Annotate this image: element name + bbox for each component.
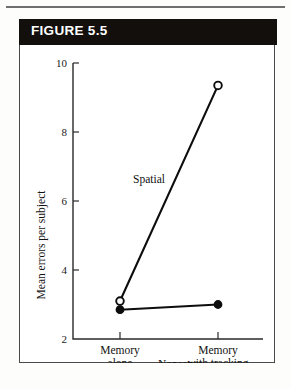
y-axis-title: Mean errors per subject [35, 190, 48, 300]
x-category-label-1-line-2: alone [108, 357, 133, 363]
y-tick-label-10: 10 [56, 57, 68, 69]
figure-root: FIGURE 5.5 Mean errors per subject 10 8 … [0, 0, 291, 389]
x-category-label-1-line-1: Memory [100, 344, 140, 357]
data-point-nonsense-memory-alone [116, 306, 123, 313]
data-point-spatial-memory-alone [116, 297, 124, 305]
y-tick-label-4: 4 [62, 264, 68, 276]
figure-number-label: FIGURE 5.5 [31, 23, 108, 38]
y-tick-label-8: 8 [62, 126, 68, 138]
y-tick-label-2: 2 [62, 333, 68, 345]
top-horizontal-rule [6, 6, 285, 8]
y-tick-label-6: 6 [62, 195, 68, 207]
data-point-nonsense-memory-with-tracking [214, 301, 221, 308]
x-category-label-2-line-1: Memory [198, 344, 238, 357]
x-category-label-2-line-2: with tracking [188, 357, 249, 363]
series-annotation-spatial: Spatial [133, 173, 165, 186]
series-line-nonsense [120, 305, 218, 310]
series-line-spatial [120, 85, 218, 301]
data-point-spatial-memory-with-tracking [214, 82, 222, 90]
plot-area: Mean errors per subject 10 8 6 4 2 [19, 45, 275, 363]
figure-header-bar: FIGURE 5.5 [19, 19, 277, 45]
line-chart-svg: Mean errors per subject 10 8 6 4 2 [19, 45, 275, 363]
axis-spines [73, 63, 263, 339]
